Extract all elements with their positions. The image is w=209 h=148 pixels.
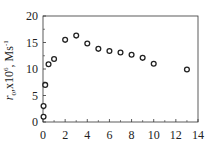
- data-point: [52, 57, 57, 62]
- data-point: [140, 55, 145, 60]
- x-tick-label: 10: [148, 128, 160, 142]
- data-point: [118, 50, 123, 55]
- plot-frame: [43, 16, 198, 122]
- data-point: [107, 49, 112, 54]
- data-point: [63, 37, 68, 42]
- y-tick-label: 15: [26, 36, 38, 50]
- y-tick-label: 10: [26, 62, 38, 76]
- y-tick-label: 20: [26, 9, 38, 23]
- x-axis-ticks: 02468101214: [40, 119, 204, 142]
- data-point: [129, 52, 134, 57]
- x-tick-label: 6: [106, 128, 112, 142]
- data-point: [43, 83, 48, 88]
- x-tick-label: 8: [129, 128, 135, 142]
- data-points: [41, 33, 189, 119]
- data-point: [96, 46, 101, 51]
- y-tick-label: 5: [32, 89, 38, 103]
- data-point: [41, 104, 46, 109]
- x-tick-label: 0: [40, 128, 46, 142]
- data-point: [151, 61, 156, 66]
- data-point: [41, 114, 46, 119]
- x-tick-label: 12: [170, 128, 182, 142]
- data-point: [85, 41, 90, 46]
- data-point: [185, 67, 190, 72]
- y-tick-label: 0: [32, 115, 38, 129]
- data-point: [74, 33, 79, 38]
- x-tick-label: 2: [62, 128, 68, 142]
- x-tick-label: 4: [84, 128, 90, 142]
- x-tick-label: 14: [192, 128, 204, 142]
- scatter-chart: 05101520 02468101214: [0, 0, 209, 148]
- data-point: [46, 62, 51, 67]
